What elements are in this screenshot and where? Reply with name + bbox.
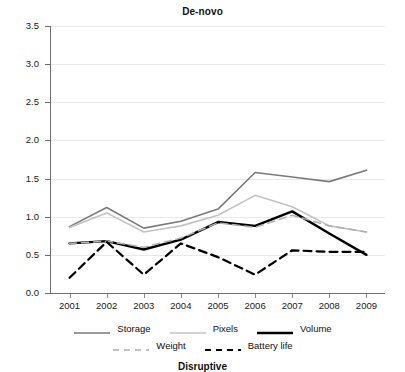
y-tick-label: 0.0 (11, 288, 39, 297)
y-tick-mark (45, 217, 50, 218)
x-tick-label: 2006 (235, 300, 275, 311)
x-tick-mark (255, 294, 256, 298)
x-tick-mark (70, 294, 71, 298)
x-tick-mark (218, 294, 219, 298)
next-chart-title: Disruptive (0, 361, 405, 372)
legend-swatch-icon (73, 324, 111, 334)
legend-swatch-icon (256, 324, 294, 334)
x-tick-mark (181, 294, 182, 298)
y-tick-mark (45, 26, 50, 27)
legend-swatch-icon (112, 341, 150, 351)
legend-swatch-icon (169, 324, 207, 334)
chart-legend: StoragePixelsVolume WeightBattery life (0, 320, 405, 354)
y-tick-label: 0.5 (11, 250, 39, 259)
legend-label: Battery life (248, 340, 293, 351)
legend-label: Weight (156, 340, 185, 351)
x-tick-label: 2009 (346, 300, 386, 311)
series-lines (51, 26, 385, 293)
y-tick-label: 2.0 (11, 135, 39, 144)
x-tick-mark (366, 294, 367, 298)
x-tick-label: 2001 (50, 300, 90, 311)
y-tick-mark (45, 179, 50, 180)
legend-item-volume[interactable]: Volume (256, 323, 332, 334)
chart-title: De-novo (0, 6, 405, 17)
y-tick-mark (45, 293, 50, 294)
x-tick-mark (107, 294, 108, 298)
y-tick-label: 3.5 (11, 21, 39, 30)
legend-item-battery-life[interactable]: Battery life (204, 340, 293, 351)
y-tick-label: 3.0 (11, 59, 39, 68)
plot-area (51, 26, 385, 293)
legend-item-storage[interactable]: Storage (73, 323, 150, 334)
legend-label: Storage (117, 323, 150, 334)
x-tick-mark (144, 294, 145, 298)
x-tick-mark (292, 294, 293, 298)
x-tick-label: 2002 (87, 300, 127, 311)
x-tick-label: 2004 (161, 300, 201, 311)
line-chart: De-novo 0.00.51.01.52.02.53.03.5 2001200… (0, 0, 405, 372)
legend-row-top: StoragePixelsVolume (0, 320, 405, 337)
y-tick-mark (45, 64, 50, 65)
legend-swatch-icon (204, 341, 242, 351)
y-tick-label: 1.0 (11, 212, 39, 221)
x-tick-label: 2003 (124, 300, 164, 311)
y-tick-label: 2.5 (11, 97, 39, 106)
series-line (70, 195, 367, 232)
series-line (70, 211, 367, 254)
legend-label: Pixels (213, 323, 238, 334)
legend-item-weight[interactable]: Weight (112, 340, 185, 351)
y-tick-mark (45, 255, 50, 256)
series-line (70, 242, 367, 278)
legend-item-pixels[interactable]: Pixels (169, 323, 238, 334)
y-tick-mark (45, 102, 50, 103)
y-tick-label: 1.5 (11, 174, 39, 183)
x-tick-label: 2007 (272, 300, 312, 311)
x-tick-mark (329, 294, 330, 298)
y-tick-mark (45, 140, 50, 141)
x-tick-label: 2005 (198, 300, 238, 311)
legend-row-bottom: WeightBattery life (0, 337, 405, 354)
series-line (70, 170, 367, 228)
x-tick-label: 2008 (309, 300, 349, 311)
legend-label: Volume (300, 323, 332, 334)
